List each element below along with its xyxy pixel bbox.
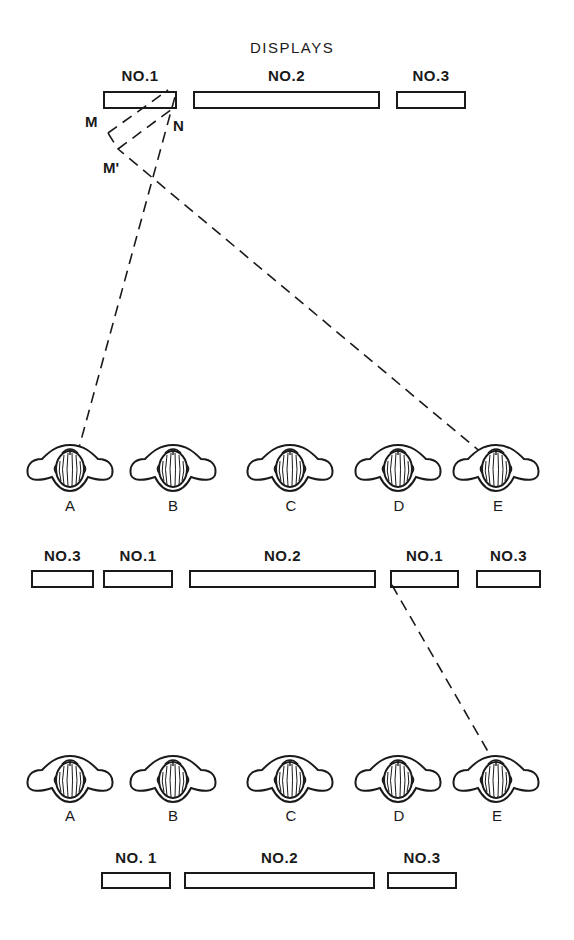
observer-row-top [28,445,539,491]
observer-label: D [389,808,409,823]
observer-label: A [60,808,80,823]
sight-line-m-prime-to-n [118,106,176,149]
observer-c-icon [248,756,333,802]
observer-e-icon [454,756,539,802]
observer-label: B [163,498,183,513]
observer-d-icon [356,445,441,491]
diagram-canvas: DISPLAYS NO.1 NO.2 NO.3 M N M' NO.3 NO.1… [0,0,574,940]
observer-c-icon [248,445,333,491]
observer-b-icon [131,445,216,491]
observer-a-icon [28,756,113,802]
observer-label: C [281,808,301,823]
observer-label: E [488,498,508,513]
observer-label: A [60,498,80,513]
sight-line-m-to-display-corner [108,90,168,133]
sight-lines-layer [0,0,574,940]
sight-line-a-to-n [77,93,176,455]
sight-line-m-to-m-prime [108,133,118,149]
sight-line-e-to-m-prime [118,149,483,454]
observer-label: D [389,498,409,513]
observer-row-bottom [28,756,539,802]
observer-label: B [163,808,183,823]
observer-d-icon [356,756,441,802]
observer-b-icon [131,756,216,802]
observer-a-icon [28,445,113,491]
observer-e-icon [454,445,539,491]
observer-label: E [487,808,507,823]
observer-label: C [281,498,301,513]
sight-line-e-to-middle-no1 [392,585,494,762]
